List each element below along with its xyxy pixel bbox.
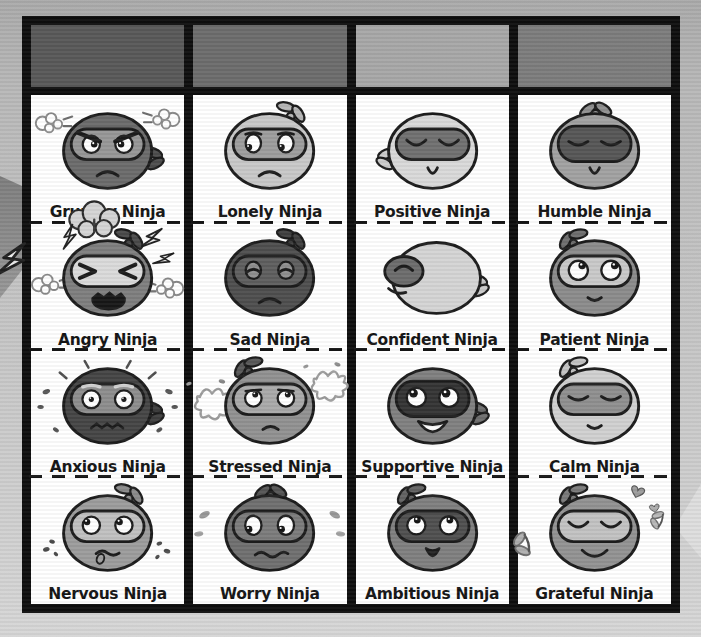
lonely-ninja-icon: [193, 95, 346, 201]
positive-ninja-icon: [356, 95, 509, 201]
angry-ninja-icon: [31, 222, 184, 328]
column-cells: Humble Ninja Patient Ninja Calm Ninja Gr…: [518, 95, 671, 604]
ninja-label: Confident Ninja: [356, 331, 509, 349]
ninja-art: [518, 95, 671, 201]
ninja-art: [31, 222, 184, 328]
emotion-column: Positive Ninja Confident Ninja Supportiv…: [356, 25, 509, 604]
ninja-cell: Sad Ninja: [193, 222, 346, 349]
ninja-art: [193, 222, 346, 328]
column-cells: Grumpy Ninja Angry Ninja Anxious Ninja N…: [31, 95, 184, 604]
ninja-label: Humble Ninja: [518, 203, 671, 221]
emotion-column: Lonely Ninja Sad Ninja Stressed Ninja Wo…: [193, 25, 346, 604]
ninja-label: Calm Ninja: [518, 458, 671, 476]
column-header-1: [31, 25, 184, 87]
ninja-cell: Anxious Ninja: [31, 350, 184, 477]
ninja-art: [193, 350, 346, 456]
ninja-art: [356, 350, 509, 456]
ninja-label: Positive Ninja: [356, 203, 509, 221]
ninja-emotions-poster: Grumpy Ninja Angry Ninja Anxious Ninja N…: [22, 16, 680, 613]
calm-ninja-icon: [518, 350, 671, 456]
ninja-art: [31, 477, 184, 583]
supportive-ninja-icon: [356, 350, 509, 456]
ninja-art: [518, 350, 671, 456]
ninja-art: [193, 95, 346, 201]
ninja-cell: Grumpy Ninja: [31, 95, 184, 222]
grumpy-ninja-icon: [31, 95, 184, 201]
ninja-label: Worry Ninja: [193, 585, 346, 603]
emotion-column: Grumpy Ninja Angry Ninja Anxious Ninja N…: [31, 25, 184, 604]
ninja-art: [356, 222, 509, 328]
ninja-cell: Calm Ninja: [518, 350, 671, 477]
ninja-label: Patient Ninja: [518, 331, 671, 349]
ninja-label: Ambitious Ninja: [356, 585, 509, 603]
ninja-art: [356, 95, 509, 201]
ninja-label: Anxious Ninja: [31, 458, 184, 476]
photo-background: Grumpy Ninja Angry Ninja Anxious Ninja N…: [0, 0, 701, 637]
worry-ninja-icon: [193, 477, 346, 583]
ninja-label: Angry Ninja: [31, 331, 184, 349]
ninja-cell: Stressed Ninja: [193, 350, 346, 477]
ninja-label: Supportive Ninja: [356, 458, 509, 476]
ninja-cell: Ambitious Ninja: [356, 477, 509, 604]
sad-ninja-icon: [193, 222, 346, 328]
column-cells: Lonely Ninja Sad Ninja Stressed Ninja Wo…: [193, 95, 346, 604]
ninja-label: Sad Ninja: [193, 331, 346, 349]
ninja-cell: Angry Ninja: [31, 222, 184, 349]
anxious-ninja-icon: [31, 350, 184, 456]
ninja-art: [31, 350, 184, 456]
ninja-label: Stressed Ninja: [193, 458, 346, 476]
poster-grid: Grumpy Ninja Angry Ninja Anxious Ninja N…: [31, 25, 671, 604]
column-cells: Positive Ninja Confident Ninja Supportiv…: [356, 95, 509, 604]
patient-ninja-icon: [518, 222, 671, 328]
grateful-ninja-icon: [518, 477, 671, 583]
ambitious-ninja-icon: [356, 477, 509, 583]
ninja-cell: Positive Ninja: [356, 95, 509, 222]
ninja-label: Grateful Ninja: [518, 585, 671, 603]
nervous-ninja-icon: [31, 477, 184, 583]
ninja-cell: Lonely Ninja: [193, 95, 346, 222]
humble-ninja-icon: [518, 95, 671, 201]
ninja-art: [518, 222, 671, 328]
column-header-4: [518, 25, 671, 87]
ninja-cell: Patient Ninja: [518, 222, 671, 349]
ninja-art: [193, 477, 346, 583]
emotion-column: Humble Ninja Patient Ninja Calm Ninja Gr…: [518, 25, 671, 604]
ninja-cell: Humble Ninja: [518, 95, 671, 222]
ninja-art: [31, 95, 184, 201]
stressed-ninja-icon: [193, 350, 346, 456]
column-header-3: [356, 25, 509, 87]
ninja-art: [356, 477, 509, 583]
ninja-label: Nervous Ninja: [31, 585, 184, 603]
ninja-cell: Grateful Ninja: [518, 477, 671, 604]
column-header-2: [193, 25, 346, 87]
confident-ninja-icon: [356, 222, 509, 328]
ninja-label: Lonely Ninja: [193, 203, 346, 221]
ninja-art: [518, 477, 671, 583]
ninja-cell: Nervous Ninja: [31, 477, 184, 604]
ninja-cell: Worry Ninja: [193, 477, 346, 604]
ninja-cell: Confident Ninja: [356, 222, 509, 349]
ninja-cell: Supportive Ninja: [356, 350, 509, 477]
